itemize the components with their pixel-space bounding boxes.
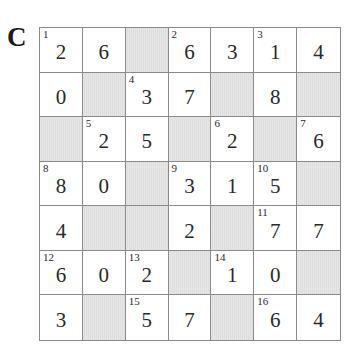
shaded-cell	[211, 295, 254, 340]
grid-cell[interactable]: 166	[254, 295, 297, 340]
grid-cell[interactable]: 7	[297, 206, 340, 251]
shaded-cell	[126, 206, 169, 251]
cell-digit: 1	[270, 40, 281, 65]
cell-digit: 7	[184, 85, 195, 110]
grid-cell[interactable]: 4	[297, 28, 340, 73]
clue-number: 10	[257, 163, 268, 174]
clue-number: 15	[129, 296, 140, 307]
grid-cell[interactable]: 1	[211, 162, 254, 207]
grid-cell[interactable]: 0	[83, 162, 126, 207]
cell-digit: 7	[184, 308, 195, 333]
shaded-cell	[126, 162, 169, 207]
cell-digit: 4	[56, 219, 67, 244]
clue-number: 1	[43, 29, 49, 40]
shaded-cell	[211, 206, 254, 251]
grid-cell[interactable]: 7	[169, 73, 212, 118]
shaded-cell	[169, 117, 212, 162]
cell-digit: 6	[184, 40, 195, 65]
shaded-cell	[297, 73, 340, 118]
cell-digit: 1	[227, 174, 238, 199]
shaded-cell	[126, 28, 169, 73]
grid-cell[interactable]: 43	[126, 73, 169, 118]
cell-digit: 0	[99, 174, 110, 199]
clue-number: 6	[214, 118, 220, 129]
shaded-cell	[254, 117, 297, 162]
clue-number: 3	[257, 29, 263, 40]
grid-cell[interactable]: 8	[254, 73, 297, 118]
grid-cell[interactable]: 132	[126, 251, 169, 296]
clue-number: 16	[257, 296, 268, 307]
shaded-cell	[83, 206, 126, 251]
grid-cell[interactable]: 4	[40, 206, 83, 251]
clue-number: 4	[129, 74, 135, 85]
grid-cell[interactable]: 3	[211, 28, 254, 73]
grid-cell[interactable]: 0	[254, 251, 297, 296]
clue-number: 11	[257, 207, 268, 218]
grid-cell[interactable]: 88	[40, 162, 83, 207]
cell-digit: 6	[270, 308, 281, 333]
grid-cell[interactable]: 155	[126, 295, 169, 340]
crossnumber-grid: 1262633140437852562768809311054211771260…	[39, 27, 341, 341]
grid-cell[interactable]: 117	[254, 206, 297, 251]
cell-digit: 3	[227, 40, 238, 65]
grid-cell[interactable]: 0	[83, 251, 126, 296]
cell-digit: 2	[184, 219, 195, 244]
cell-digit: 7	[270, 219, 281, 244]
clue-number: 2	[172, 29, 178, 40]
grid-cell[interactable]: 31	[254, 28, 297, 73]
grid-cell[interactable]: 126	[40, 251, 83, 296]
cell-digit: 8	[56, 174, 67, 199]
grid-cell[interactable]: 105	[254, 162, 297, 207]
clue-number: 13	[129, 252, 140, 263]
grid-cell[interactable]: 6	[83, 28, 126, 73]
clue-number: 8	[43, 163, 49, 174]
grid-cell[interactable]: 141	[211, 251, 254, 296]
grid-cell[interactable]: 3	[40, 295, 83, 340]
grid-cell[interactable]: 4	[297, 295, 340, 340]
cell-digit: 3	[56, 308, 67, 333]
clue-number: 14	[214, 252, 225, 263]
shaded-cell	[297, 162, 340, 207]
cell-digit: 2	[141, 263, 152, 288]
grid-cell[interactable]: 26	[169, 28, 212, 73]
shaded-cell	[297, 251, 340, 296]
clue-number: 9	[172, 163, 178, 174]
cell-digit: 5	[141, 308, 152, 333]
cell-digit: 3	[141, 85, 152, 110]
cell-digit: 1	[227, 263, 238, 288]
grid-cell[interactable]: 7	[169, 295, 212, 340]
cell-digit: 0	[99, 263, 110, 288]
cell-digit: 0	[56, 85, 67, 110]
cell-digit: 4	[313, 308, 324, 333]
clue-number: 5	[86, 118, 92, 129]
grid-cell[interactable]: 0	[40, 73, 83, 118]
cell-digit: 4	[313, 40, 324, 65]
cell-digit: 5	[270, 174, 281, 199]
cell-digit: 8	[270, 85, 281, 110]
cell-digit: 2	[56, 40, 67, 65]
cell-digit: 2	[99, 129, 110, 154]
shaded-cell	[83, 73, 126, 118]
puzzle-label: C	[7, 24, 27, 51]
cell-digit: 6	[313, 129, 324, 154]
clue-number: 7	[300, 118, 306, 129]
shaded-cell	[83, 295, 126, 340]
cell-digit: 2	[227, 129, 238, 154]
grid-cell[interactable]: 62	[211, 117, 254, 162]
grid-cell[interactable]: 12	[40, 28, 83, 73]
grid-cell[interactable]: 5	[126, 117, 169, 162]
shaded-cell	[169, 251, 212, 296]
grid-cell[interactable]: 76	[297, 117, 340, 162]
cell-digit: 6	[56, 263, 67, 288]
grid-cell[interactable]: 93	[169, 162, 212, 207]
cell-digit: 7	[313, 219, 324, 244]
grid-cell[interactable]: 52	[83, 117, 126, 162]
cell-digit: 5	[141, 129, 152, 154]
shaded-cell	[40, 117, 83, 162]
cell-digit: 3	[184, 174, 195, 199]
clue-number: 12	[43, 252, 54, 263]
grid-cell[interactable]: 2	[169, 206, 212, 251]
cell-digit: 6	[99, 40, 110, 65]
shaded-cell	[211, 73, 254, 118]
cell-digit: 0	[270, 263, 281, 288]
